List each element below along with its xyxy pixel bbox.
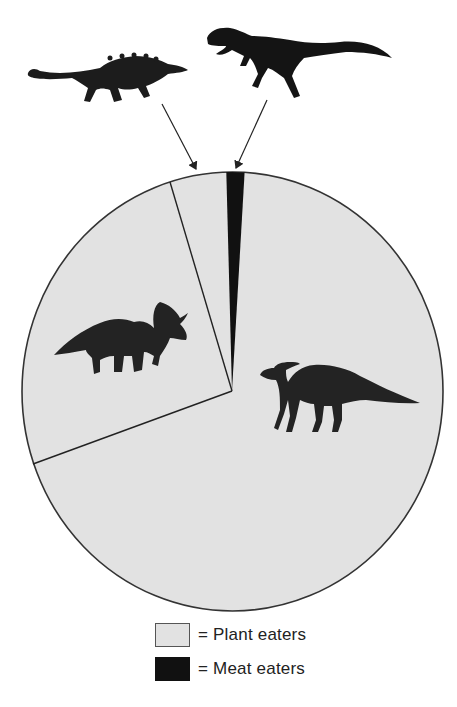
- legend: = Plant eaters = Meat eaters: [155, 622, 306, 690]
- tyrannosaur-silhouette-icon: [207, 28, 392, 98]
- legend-item-plant-eaters: = Plant eaters: [155, 622, 306, 648]
- legend-label-plant-eaters: = Plant eaters: [198, 625, 306, 645]
- legend-swatch-plant-eaters: [155, 623, 190, 647]
- legend-item-meat-eaters: = Meat eaters: [155, 656, 306, 682]
- arrow-tyrannosaur: [236, 100, 267, 168]
- pie-chart: [0, 0, 457, 707]
- legend-label-meat-eaters: = Meat eaters: [198, 659, 305, 679]
- ankylosaur-silhouette-icon: [28, 53, 188, 103]
- arrow-ankylosaur: [162, 104, 196, 169]
- legend-swatch-meat-eaters: [155, 657, 190, 681]
